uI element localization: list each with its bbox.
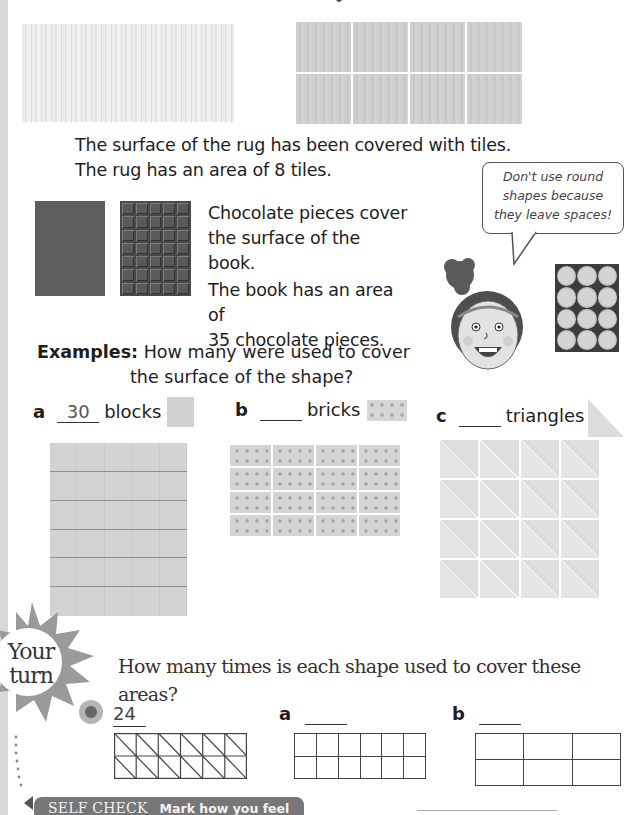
chocolate-piece bbox=[177, 230, 189, 241]
rug-tile bbox=[467, 74, 522, 124]
brick-cell bbox=[230, 515, 271, 536]
book-caption: Chocolate pieces cover the surface of th… bbox=[208, 201, 408, 353]
rug-tile bbox=[353, 22, 408, 72]
rug-tile bbox=[296, 22, 351, 72]
speech-bubble: Don't use round shapes because they leav… bbox=[482, 162, 624, 234]
chocolate-piece bbox=[177, 256, 189, 267]
grid-cell bbox=[382, 757, 404, 780]
book-caption-line1: Chocolate pieces cover bbox=[208, 201, 408, 226]
example-c: c triangles bbox=[436, 397, 624, 435]
grid-cell bbox=[524, 760, 572, 786]
block-cell bbox=[132, 443, 159, 472]
block-cell bbox=[160, 587, 187, 616]
block-cell bbox=[132, 472, 159, 501]
block-cell bbox=[160, 558, 187, 587]
block-cell bbox=[77, 558, 104, 587]
bubble-line1: Don't use round bbox=[483, 167, 623, 186]
brick-cell bbox=[316, 492, 357, 513]
coin bbox=[577, 287, 596, 307]
round-coins-illustration bbox=[555, 264, 619, 352]
example-a-answer-field[interactable]: 30 bbox=[57, 401, 99, 423]
triangle-cell bbox=[440, 560, 478, 598]
rug-tiled-image bbox=[296, 22, 522, 124]
triangle-area-grid bbox=[114, 733, 247, 779]
book-caption-line3: The book has an area of bbox=[208, 278, 408, 328]
coin bbox=[557, 287, 576, 307]
coin bbox=[577, 266, 596, 286]
bottom-rule bbox=[417, 810, 557, 815]
block-cell bbox=[50, 472, 77, 501]
girl-character-illustration bbox=[432, 255, 542, 373]
your-turn-a-answer-field[interactable] bbox=[305, 703, 347, 725]
your-turn-label: Your turn bbox=[0, 640, 62, 688]
chocolate-piece bbox=[150, 283, 162, 294]
chocolate-piece bbox=[136, 243, 148, 254]
triangle-cell bbox=[440, 440, 478, 478]
brick-cell bbox=[230, 468, 271, 489]
grid-cell bbox=[524, 734, 572, 760]
block-cell bbox=[105, 558, 132, 587]
arrow-left-icon bbox=[24, 796, 33, 810]
triangle-cell bbox=[561, 480, 599, 518]
examples-question-line2: the surface of the shape? bbox=[37, 365, 437, 390]
examples-prompt: Examples: How many were used to cover th… bbox=[37, 340, 437, 390]
grid-cell bbox=[361, 734, 383, 757]
example-c-answer-field[interactable] bbox=[459, 405, 501, 427]
brick-cell bbox=[230, 445, 271, 466]
brick-cell bbox=[359, 515, 400, 536]
your-turn-line1: Your bbox=[0, 640, 62, 664]
area-a-grid bbox=[294, 733, 426, 779]
rug-tile bbox=[467, 22, 522, 72]
grid-cell bbox=[317, 757, 339, 780]
dotted-trail-decoration bbox=[13, 733, 27, 798]
example-c-unit: triangles bbox=[506, 403, 585, 429]
block-cell bbox=[77, 443, 104, 472]
rug-tile bbox=[296, 74, 351, 124]
block-cell bbox=[132, 558, 159, 587]
examples-question-line1: How many were used to cover bbox=[144, 342, 410, 362]
rug-caption-line1: The surface of the rug has been covered … bbox=[75, 133, 515, 158]
block-cell bbox=[50, 443, 77, 472]
example-b: b bricks bbox=[235, 397, 407, 423]
coin bbox=[598, 287, 617, 307]
chocolate-piece bbox=[177, 269, 189, 280]
coin bbox=[577, 330, 596, 350]
coin bbox=[598, 309, 617, 329]
brick-cell bbox=[230, 492, 271, 513]
block-cell bbox=[160, 472, 187, 501]
block-cell bbox=[105, 530, 132, 559]
block-cell bbox=[132, 530, 159, 559]
coin bbox=[577, 309, 596, 329]
cropped-heading-fragment bbox=[336, 0, 342, 2]
triangle-cell bbox=[440, 480, 478, 518]
chocolate-piece bbox=[177, 243, 189, 254]
bullet-circle-icon bbox=[79, 700, 103, 724]
example-a-unit: blocks bbox=[104, 399, 161, 425]
your-turn-b-answer-field[interactable] bbox=[479, 703, 521, 725]
triangle-cell bbox=[440, 520, 478, 558]
brick-cell bbox=[316, 515, 357, 536]
block-cell bbox=[132, 587, 159, 616]
block-cell bbox=[132, 501, 159, 530]
your-turn-b: b bbox=[452, 702, 526, 726]
triangle-cell bbox=[561, 440, 599, 478]
your-turn-a-letter: a bbox=[279, 702, 291, 726]
chocolate-piece bbox=[150, 269, 162, 280]
block-cell bbox=[50, 501, 77, 530]
chocolate-piece bbox=[150, 216, 162, 227]
chocolate-piece bbox=[136, 203, 148, 214]
grid-cell bbox=[382, 734, 404, 757]
example-b-answer-field[interactable] bbox=[260, 399, 302, 421]
your-turn-sample: 24 bbox=[113, 702, 146, 727]
brick-sample-icon bbox=[367, 400, 407, 421]
bubble-line2: shapes because bbox=[483, 186, 623, 205]
rug-image bbox=[22, 24, 234, 122]
grid-cell bbox=[573, 760, 621, 786]
block-cell bbox=[77, 472, 104, 501]
chocolate-piece bbox=[163, 256, 175, 267]
example-b-unit: bricks bbox=[307, 397, 361, 423]
area-b-grid bbox=[475, 733, 621, 786]
rug-caption: The surface of the rug has been covered … bbox=[75, 133, 515, 183]
chocolate-piece bbox=[163, 269, 175, 280]
chocolate-piece bbox=[150, 230, 162, 241]
